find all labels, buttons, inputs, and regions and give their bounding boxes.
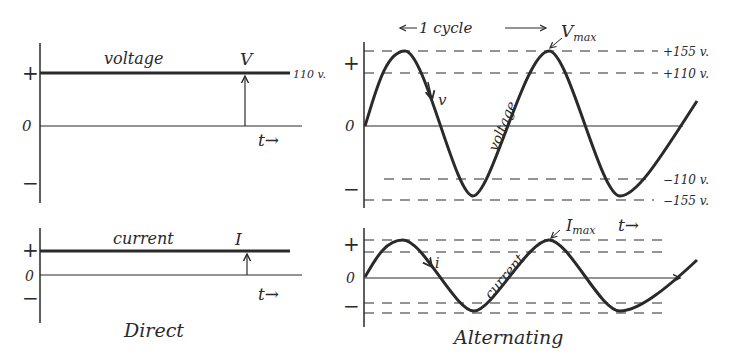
- time-label: t→: [258, 284, 279, 304]
- current-sine-wave: [365, 240, 697, 311]
- caption-direct: Direct: [123, 319, 184, 341]
- zero-label: 0: [346, 270, 355, 286]
- plus-sign: +: [22, 61, 39, 85]
- zero-label: 0: [345, 117, 355, 135]
- diagram-canvas: + 0 − voltage V 110 v. t→ + 0 − current …: [0, 0, 747, 361]
- caption-alternating: Alternating: [452, 326, 563, 348]
- i-symbol: I: [234, 229, 242, 249]
- ac-current-plot: i current Imax t→ + 0 − Alternating: [343, 215, 697, 348]
- level-minus110: −110 v.: [663, 173, 709, 187]
- plus-sign: +: [343, 51, 360, 75]
- value-110v: 110 v.: [293, 68, 326, 81]
- plus-sign: +: [343, 232, 360, 256]
- plus-sign: +: [22, 238, 39, 262]
- v-symbol: V: [240, 49, 254, 69]
- voltage-label: voltage: [104, 49, 163, 68]
- minus-sign: −: [22, 286, 39, 310]
- level-plus110: +110 v.: [663, 67, 709, 81]
- vmax-label: Vmax: [561, 21, 597, 44]
- ac-voltage-plot: 1 cycle Vmax v voltage +155 v. +110 v. −…: [343, 19, 709, 208]
- instant-v-label: v: [438, 91, 447, 109]
- level-minus155: −155 v.: [663, 194, 709, 208]
- level-plus155: +155 v.: [663, 45, 709, 59]
- minus-sign: −: [22, 171, 39, 195]
- imax-label: Imax: [565, 216, 596, 237]
- minus-sign: −: [343, 177, 360, 201]
- time-label: t→: [618, 215, 639, 235]
- time-label: t→: [258, 130, 279, 150]
- voltage-sine-wave: [365, 51, 697, 196]
- direct-voltage-plot: + 0 − voltage V 110 v. t→: [22, 43, 326, 203]
- zero-label: 0: [25, 268, 34, 284]
- zero-label: 0: [22, 117, 32, 135]
- cycle-label: 1 cycle: [419, 19, 472, 37]
- current-label: current: [481, 251, 528, 302]
- instant-i-label: i: [435, 255, 439, 271]
- minus-sign: −: [343, 294, 360, 318]
- current-label: current: [113, 229, 174, 248]
- direct-current-plot: + 0 − current I t→ Direct: [22, 228, 302, 341]
